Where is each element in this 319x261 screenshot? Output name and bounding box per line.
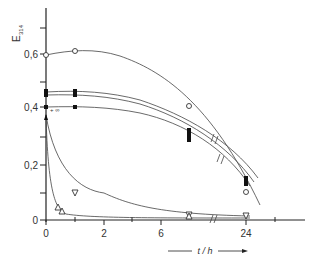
y-tick-label-0.4: 0,4 — [24, 102, 38, 113]
y-axis-label: E 314 — [11, 24, 24, 42]
x-axis-label: t / h — [197, 246, 212, 256]
start-arrow-icon — [44, 114, 48, 120]
y-tick-label-0.2: 0,2 — [24, 160, 38, 171]
infinity-annotation: + ∞ — [50, 107, 59, 113]
x-tick-label-6: 6 — [158, 228, 164, 239]
circle-markers — [44, 49, 249, 195]
x-tick-label-0: 0 — [43, 228, 49, 239]
x-tick-label-2: 2 — [101, 228, 107, 239]
x-tick-label-24: 24 — [240, 228, 252, 239]
svg-text:314: 314 — [18, 24, 24, 35]
y-tick-label-0.6: 0,6 — [24, 49, 38, 60]
svg-text:E: E — [11, 35, 22, 42]
curves — [46, 51, 260, 218]
chart: 0,6 0,4 0,2 0 E 314 0 2 6 24 t / h — [0, 0, 319, 261]
x-label-arrow-icon — [242, 249, 248, 253]
y-tick-label-0: 0 — [32, 215, 38, 226]
